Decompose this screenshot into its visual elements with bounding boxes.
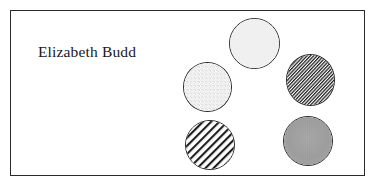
- wide-hatch-disc-graphic: [186, 121, 234, 169]
- wide-hatch-disc: [185, 120, 235, 170]
- solid-gray-disc: [283, 116, 333, 166]
- stipple-disc-graphic: [184, 63, 231, 111]
- dense-hatch-disc-graphic: [287, 55, 334, 105]
- plain-disc: [229, 18, 280, 69]
- plain-disc-graphic: [230, 19, 279, 68]
- framed-plate: Elizabeth Budd: [10, 10, 365, 176]
- stipple-disc: [183, 62, 232, 112]
- page-title: Elizabeth Budd: [38, 43, 136, 61]
- solid-gray-disc-graphic: [284, 117, 332, 165]
- page-canvas: Elizabeth Budd: [0, 0, 376, 188]
- dense-hatch-disc: [286, 54, 335, 106]
